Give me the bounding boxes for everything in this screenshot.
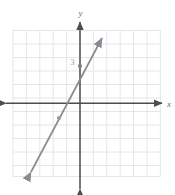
graph-screenshot: 3 y x xyxy=(0,0,175,195)
point-marker-secondary xyxy=(57,116,61,120)
y-intercept-tick-label: 3 xyxy=(71,58,75,67)
coordinate-plane-figure: 3 y x xyxy=(0,0,175,195)
point-marker-y-intercept xyxy=(78,64,82,68)
x-axis-label: x xyxy=(166,99,171,109)
y-axis-label: y xyxy=(78,8,83,18)
